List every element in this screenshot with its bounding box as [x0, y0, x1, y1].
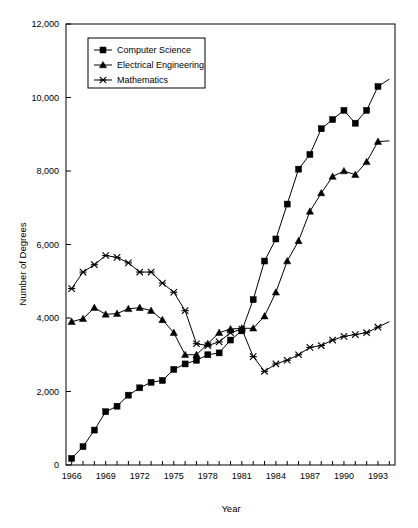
data-point-marker	[318, 342, 325, 348]
data-point-marker	[136, 269, 143, 275]
data-point-marker	[137, 385, 143, 391]
data-point-marker	[284, 357, 291, 363]
data-point-marker	[295, 352, 302, 358]
data-point-marker	[182, 307, 189, 313]
data-point-marker	[125, 260, 132, 266]
data-point-marker	[103, 409, 109, 415]
y-tick-label: 8,000	[36, 166, 59, 176]
x-axis-title: Year	[221, 503, 240, 514]
data-point-marker	[79, 269, 86, 275]
data-point-marker	[182, 361, 188, 367]
chart-container: 02,0004,0006,0008,00010,00012,000 196619…	[0, 0, 418, 528]
data-point-marker	[148, 379, 154, 385]
x-axis-tick-labels: 1966196919721975197819811984198719901993	[62, 471, 388, 481]
data-point-marker	[159, 377, 165, 383]
x-tick-label: 1984	[266, 471, 286, 481]
chart-legend: Computer ScienceElectrical EngineeringMa…	[88, 38, 205, 88]
x-tick-label: 1981	[232, 471, 252, 481]
data-point-marker	[352, 331, 359, 337]
data-point-marker	[261, 368, 268, 374]
data-point-marker	[159, 280, 166, 286]
data-point-marker	[216, 350, 222, 356]
data-point-marker	[228, 337, 234, 343]
data-point-marker	[295, 237, 302, 243]
data-point-marker	[113, 310, 120, 316]
legend-item-label: Computer Science	[117, 45, 191, 55]
y-tick-label: 0	[54, 460, 59, 470]
data-point-marker	[329, 337, 336, 343]
data-point-marker	[364, 107, 370, 113]
data-point-marker	[102, 252, 109, 258]
data-point-marker	[341, 107, 347, 113]
data-point-marker	[318, 189, 325, 195]
data-point-marker	[375, 83, 381, 89]
x-tick-label: 1990	[334, 471, 354, 481]
y-axis-tick-labels: 02,0004,0006,0008,00010,00012,000	[31, 19, 59, 470]
x-tick-label: 1972	[130, 471, 150, 481]
series-computer-science	[69, 79, 390, 461]
y-tick-label: 2,000	[36, 387, 59, 397]
data-point-marker	[363, 158, 370, 164]
data-point-marker	[329, 173, 336, 179]
data-point-marker	[250, 297, 256, 303]
data-point-marker	[91, 262, 98, 268]
data-point-marker	[91, 304, 98, 310]
data-point-marker	[91, 427, 97, 433]
data-point-marker	[284, 201, 290, 207]
data-point-marker	[80, 444, 86, 450]
data-point-marker	[340, 333, 347, 339]
data-point-marker	[272, 361, 279, 367]
data-point-marker	[363, 330, 370, 336]
data-point-marker	[193, 341, 200, 347]
y-tick-label: 4,000	[36, 313, 59, 323]
series-electrical-engineering	[68, 138, 389, 358]
x-tick-label: 1993	[368, 471, 388, 481]
data-point-marker	[306, 208, 313, 214]
x-tick-label: 1987	[300, 471, 320, 481]
data-point-marker	[250, 353, 257, 359]
data-point-marker	[261, 313, 268, 319]
data-point-marker	[136, 304, 143, 310]
data-point-marker	[262, 258, 268, 264]
data-point-marker	[69, 455, 75, 461]
data-point-marker	[205, 352, 211, 358]
data-point-marker	[193, 357, 199, 363]
y-axis-title: Number of Degrees	[17, 222, 28, 305]
data-point-marker	[330, 117, 336, 123]
data-point-marker	[272, 289, 279, 295]
data-point-marker	[114, 403, 120, 409]
data-point-marker	[340, 167, 347, 173]
data-point-marker	[113, 254, 120, 260]
data-point-marker	[147, 269, 154, 275]
data-point-marker	[296, 166, 302, 172]
data-point-marker	[171, 366, 177, 372]
data-point-marker	[216, 339, 223, 345]
x-tick-label: 1966	[62, 471, 82, 481]
y-tick-label: 6,000	[36, 240, 59, 250]
data-point-marker	[170, 289, 177, 295]
y-tick-label: 12,000	[31, 19, 59, 29]
y-tick-label: 10,000	[31, 93, 59, 103]
data-series-group	[68, 79, 389, 461]
data-point-marker	[100, 47, 106, 53]
data-point-marker	[306, 344, 313, 350]
y-axis-ticks	[66, 24, 71, 465]
data-point-marker	[68, 285, 75, 291]
data-point-marker	[307, 151, 313, 157]
data-point-marker	[273, 236, 279, 242]
data-point-marker	[284, 257, 291, 263]
legend-item-label: Electrical Engineering	[117, 60, 204, 70]
legend-item-label: Mathematics	[117, 75, 169, 85]
data-point-marker	[352, 120, 358, 126]
x-tick-label: 1978	[198, 471, 218, 481]
plot-frame	[66, 24, 395, 465]
data-point-marker	[318, 126, 324, 132]
data-point-marker	[374, 324, 381, 330]
degrees-by-field-line-chart: 02,0004,0006,0008,00010,00012,000 196619…	[0, 0, 418, 528]
x-tick-label: 1975	[164, 471, 184, 481]
x-axis-ticks	[72, 461, 390, 465]
x-tick-label: 1969	[96, 471, 116, 481]
data-point-marker	[125, 392, 131, 398]
